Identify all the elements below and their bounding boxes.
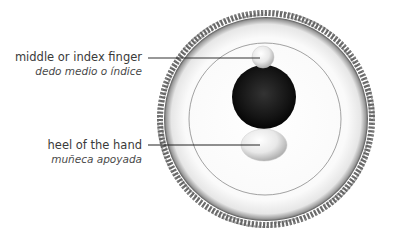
dark-ball [232,65,296,129]
finger-ball [252,46,274,68]
finger-label-english: middle or index finger [15,50,142,64]
heel-label: heel of the hand muñeca apoyada [48,138,142,166]
finger-label-spanish: dedo medio o índice [15,64,142,78]
finger-label: middle or index finger dedo medio o índi… [15,50,142,78]
hand-position-diagram [0,0,399,243]
heel-label-english: heel of the hand [48,138,142,152]
heel-label-spanish: muñeca apoyada [48,152,142,166]
